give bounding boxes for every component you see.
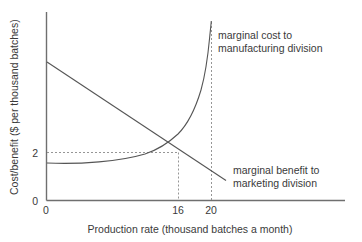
marginal-cost-annotation-line2: manufacturing division: [218, 42, 323, 54]
marginal-cost-annotation-line1: marginal cost to: [218, 29, 292, 41]
chart-figure: 2 0 0 16 20 Cost/benefit ($ per thousand…: [0, 0, 362, 242]
y-tick-label-2: 2: [32, 147, 38, 159]
y-axis-title: Cost/benefit ($ per thousand batches): [8, 19, 20, 195]
marginal-cost-curve: [47, 21, 211, 163]
marginal-benefit-curve: [47, 62, 226, 181]
x-axis-title: Production rate (thousand batches a mont…: [88, 223, 293, 235]
marginal-benefit-annotation-line1: marginal benefit to: [233, 164, 320, 176]
chart-canvas: 2 0 0 16 20 Cost/benefit ($ per thousand…: [0, 0, 362, 242]
x-tick-label-16: 16: [172, 204, 184, 216]
x-tick-label-20: 20: [205, 204, 217, 216]
marginal-benefit-annotation-line2: marketing division: [233, 177, 317, 189]
x-tick-label-0: 0: [43, 204, 49, 216]
y-tick-label-0: 0: [32, 195, 38, 207]
